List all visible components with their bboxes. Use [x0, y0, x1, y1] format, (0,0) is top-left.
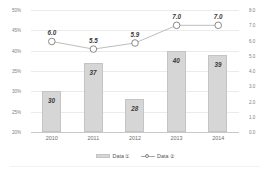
- category-label-2012: 2012: [114, 135, 156, 141]
- left-axis-tick: 40%: [0, 49, 22, 54]
- circle-marker-icon: [141, 154, 155, 159]
- right-axis-tick: 8.0: [248, 8, 270, 13]
- category-axis: 2010 2011 2012 2013 2014: [31, 135, 239, 145]
- marker-value-label: 6.0: [37, 29, 67, 36]
- right-axis-tick: 1.0: [248, 115, 270, 120]
- right-axis-tick: 6.0: [248, 39, 270, 44]
- marker-2012[interactable]: [132, 40, 139, 47]
- marker-2013[interactable]: [173, 22, 180, 29]
- marker-2014[interactable]: [215, 22, 222, 29]
- bar-swatch-icon: [96, 154, 110, 158]
- left-axis-tick: 25%: [0, 110, 22, 115]
- left-axis-tick: 45%: [0, 28, 22, 33]
- right-axis-tick: 2.0: [248, 100, 270, 105]
- marker-value-label: 5.5: [78, 37, 108, 44]
- plot-area: 30 37 28 40 39 6.0 5.5 5.9 7: [31, 10, 239, 133]
- right-axis-labels[interactable]: 8.0 7.0 6.0 5.0 4.0 3.0 2.0 1.0 0.0: [248, 10, 270, 133]
- left-axis-tick: 35%: [0, 69, 22, 74]
- left-axis-tick: 50%: [0, 8, 22, 13]
- right-axis-tick: 5.0: [248, 54, 270, 59]
- legend-label: Data ①: [113, 153, 130, 159]
- chart-legend: Data ① Data ②: [0, 150, 270, 162]
- marker-value-label: 7.0: [203, 13, 233, 20]
- left-axis-tick: 20%: [0, 130, 22, 135]
- marker-value-label: 5.9: [120, 31, 150, 38]
- legend-item-data-2[interactable]: Data ②: [141, 153, 174, 159]
- right-axis-tick: 7.0: [248, 23, 270, 28]
- chart-container: 30 37 28 40 39 6.0 5.5 5.9 7: [0, 0, 270, 170]
- marker-2010[interactable]: [49, 38, 56, 45]
- bottom-divider: [10, 166, 260, 167]
- marker-2011[interactable]: [90, 46, 97, 53]
- right-axis-tick: 4.0: [248, 69, 270, 74]
- left-axis-tick: 30%: [0, 89, 22, 94]
- marker-value-label: 7.0: [162, 13, 192, 20]
- category-label-2014: 2014: [197, 135, 239, 141]
- category-label-2010: 2010: [31, 135, 73, 141]
- legend-label: Data ②: [157, 153, 174, 159]
- category-label-2013: 2013: [156, 135, 198, 141]
- left-axis-labels[interactable]: 50% 45% 40% 35% 30% 25% 20%: [0, 10, 22, 133]
- right-axis-tick: 3.0: [248, 84, 270, 89]
- category-label-2011: 2011: [73, 135, 115, 141]
- right-axis-tick: 0.0: [248, 130, 270, 135]
- legend-item-data-1[interactable]: Data ①: [96, 153, 129, 159]
